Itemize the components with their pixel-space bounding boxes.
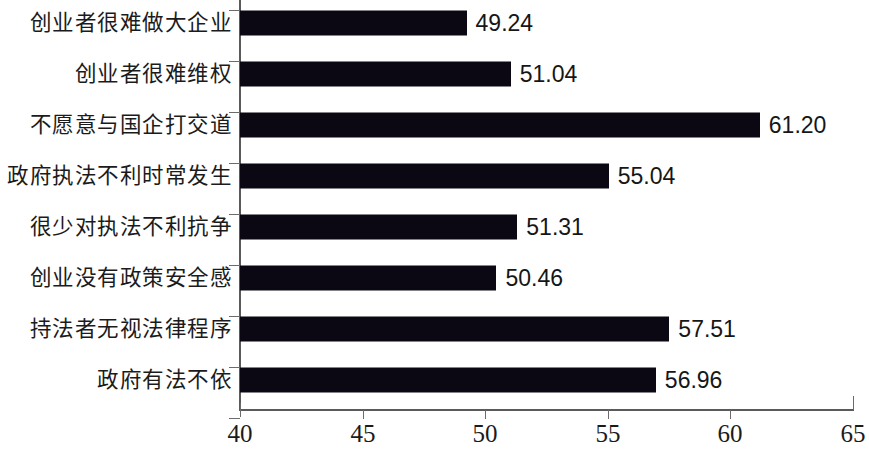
category-label: 创业者很难维权: [75, 63, 233, 85]
x-axis-tick: [240, 403, 241, 417]
x-axis-tick-label: 60: [718, 421, 743, 446]
x-axis-tick: [485, 410, 486, 419]
plot-area: 创业者很难做大企业49.24创业者很难维权51.04不愿意与国企打交道61.20…: [0, 0, 869, 410]
y-axis-tick: [229, 418, 240, 419]
bar-value-label: 49.24: [476, 11, 534, 34]
bar-row: 不愿意与国企打交道61.20: [0, 99, 869, 150]
bar-row: 创业没有政策安全感50.46: [0, 252, 869, 303]
bar: [240, 163, 609, 188]
x-axis-tick-label: 50: [473, 421, 498, 446]
bar: [240, 112, 760, 137]
category-label: 创业者很难做大企业: [30, 12, 233, 34]
bar-value-label: 55.04: [618, 164, 676, 187]
bar-row: 政府执法不利时常发生55.04: [0, 150, 869, 201]
x-axis-tick: [730, 410, 731, 419]
bar-value-label: 51.04: [520, 62, 578, 85]
category-label: 持法者无视法律程序: [30, 318, 233, 340]
bar-value-label: 50.46: [505, 266, 563, 289]
bar: [240, 367, 656, 392]
x-axis-tick-label: 40: [228, 421, 253, 446]
category-label: 很少对执法不利抗争: [30, 216, 233, 238]
bar-row: 创业者很难维权51.04: [0, 48, 869, 99]
x-axis-tick: [608, 410, 609, 419]
bar-value-label: 56.96: [665, 368, 723, 391]
horizontal-bar-chart: 创业者很难做大企业49.24创业者很难维权51.04不愿意与国企打交道61.20…: [0, 0, 869, 457]
x-axis-line: [239, 409, 854, 411]
category-label: 政府执法不利时常发生: [7, 165, 232, 187]
bar: [240, 61, 511, 86]
bar-value-label: 61.20: [769, 113, 827, 136]
bar-value-label: 51.31: [526, 215, 584, 238]
bar-row: 创业者很难做大企业49.24: [0, 0, 869, 48]
x-axis-tick-label: 65: [841, 421, 866, 446]
bar-row: 持法者无视法律程序57.51: [0, 303, 869, 354]
bar: [240, 316, 669, 341]
bar-row: 政府有法不依56.96: [0, 354, 869, 405]
category-label: 政府有法不依: [97, 369, 232, 391]
x-axis-tick-label: 55: [596, 421, 621, 446]
bar: [240, 214, 517, 239]
bar: [240, 265, 496, 290]
category-label: 不愿意与国企打交道: [30, 114, 233, 136]
bar-row: 很少对执法不利抗争51.31: [0, 201, 869, 252]
x-axis-tick-label: 45: [351, 421, 376, 446]
bar-value-label: 57.51: [678, 317, 736, 340]
bar: [240, 10, 467, 35]
category-label: 创业没有政策安全感: [30, 267, 233, 289]
x-axis-tick: [363, 410, 364, 419]
